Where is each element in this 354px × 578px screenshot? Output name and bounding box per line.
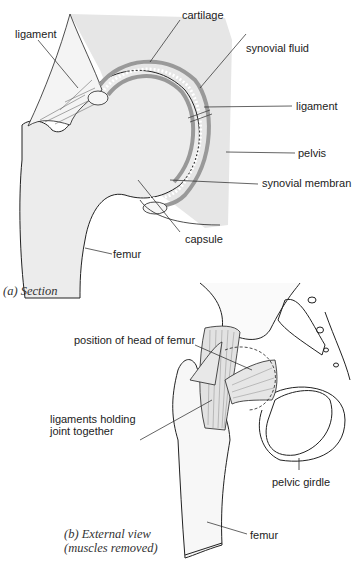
label-ligaments-holding: ligaments holding joint together [50, 413, 136, 437]
label-capsule: capsule [185, 233, 223, 245]
label-ligament-right: ligament [296, 100, 338, 112]
label-ligaments-line1: ligaments holding [50, 413, 136, 425]
label-femur-b: femur [250, 529, 278, 541]
caption-a-letter: (a) [3, 284, 18, 298]
label-synovial-fluid: synovial fluid [246, 42, 309, 54]
caption-b-line2: (muscles removed) [64, 541, 158, 555]
caption-b: (b) External view (muscles removed) [64, 527, 158, 555]
label-pelvis: pelvis [298, 147, 326, 159]
label-ligament-left: ligament [15, 28, 57, 40]
label-cartilage: cartilage [182, 9, 224, 21]
caption-b-line1: External view [82, 527, 151, 541]
external-view-diagram [140, 283, 350, 558]
label-ligaments-line2: joint together [50, 425, 136, 437]
caption-a-text: Section [21, 284, 58, 298]
caption-a: (a) Section [3, 284, 58, 298]
label-position-head-femur: position of head of femur [74, 334, 195, 346]
caption-b-letter: (b) [64, 527, 79, 541]
section-diagram [20, 14, 295, 298]
label-pelvic-girdle: pelvic girdle [272, 476, 330, 488]
label-femur-a: femur [113, 248, 141, 260]
label-synovial-membrane: synovial membran [262, 177, 351, 189]
